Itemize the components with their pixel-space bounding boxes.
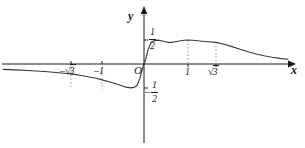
function-graph-figure: y x O –√3 –1 1 √3 1 2 – 1 2 [0, 0, 305, 148]
fraction-minus-sign: – [145, 87, 150, 98]
fraction-denominator: 2 [151, 94, 158, 105]
x-axis [2, 61, 296, 68]
fraction-numerator: 1 [149, 27, 156, 38]
y-axis-label: y [128, 10, 133, 22]
fraction-denominator: 2 [149, 41, 156, 52]
x-axis-label: x [291, 64, 297, 76]
x-tick-label-neg-one: –1 [94, 66, 104, 76]
radical-neg-sqrt3: √3 [65, 66, 76, 76]
x-tick-label-one: 1 [185, 67, 190, 77]
x-tick-label-neg-sqrt3: –√3 [60, 66, 76, 76]
fraction-numerator: 1 [151, 80, 158, 91]
radical-sqrt3: √3 [208, 67, 219, 77]
radicand-sqrt3: 3 [213, 65, 219, 77]
x-tick-label-sqrt3: √3 [208, 67, 219, 77]
y-tick-label-pos-half: 1 2 [149, 27, 156, 51]
radicand-neg-sqrt3: 3 [70, 64, 76, 76]
plot-canvas [0, 0, 305, 148]
origin-label: O [134, 65, 142, 76]
y-tick-label-neg-half: – 1 2 [151, 80, 158, 104]
